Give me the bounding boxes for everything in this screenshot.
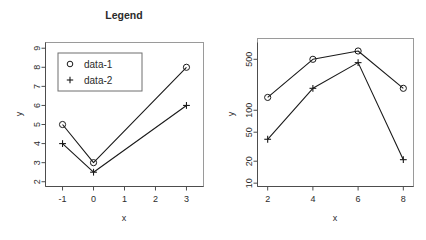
y-tick-label: 50 [245, 127, 255, 137]
plot-right-svg: 102050100500 2468 x y [213, 0, 426, 240]
left-y-ticks: 23456789 [33, 46, 46, 185]
y-tick-label: 10 [245, 178, 255, 188]
series-line-data-1 [268, 51, 404, 97]
x-tick-label: 0 [91, 194, 96, 204]
y-tick-label: 5 [33, 122, 43, 127]
y-tick-label: 500 [245, 52, 255, 67]
y-tick-label: 6 [33, 103, 43, 108]
y-tick-label: 100 [245, 103, 255, 118]
chart-canvas: 23456789 -10123 data-1data-2 Legend x y … [0, 0, 426, 240]
legend-label: data-2 [84, 75, 113, 86]
left-x-axis-label: x [122, 213, 127, 223]
plot-panel-right: 102050100500 2468 x y [213, 0, 426, 240]
y-tick-label: 7 [33, 84, 43, 89]
x-tick-label: 2 [153, 194, 158, 204]
y-tick-label: 20 [245, 156, 255, 166]
left-legend[interactable]: data-1data-2 [58, 53, 142, 91]
x-tick-label: 3 [184, 194, 189, 204]
y-tick-label: 8 [33, 65, 43, 70]
plot-left-svg: 23456789 -10123 data-1data-2 Legend x y [0, 0, 213, 240]
right-series-data-1 [265, 48, 407, 101]
left-x-ticks: -10123 [59, 187, 189, 204]
legend-label: data-1 [84, 59, 113, 70]
x-tick-label: 6 [356, 194, 361, 204]
plot-panel-left: 23456789 -10123 data-1data-2 Legend x y [0, 0, 213, 240]
y-tick-label: 4 [33, 141, 43, 146]
right-series-data-2 [264, 59, 406, 163]
right-y-ticks: 102050100500 [245, 52, 258, 188]
page-title: Legend [105, 9, 142, 21]
left-series-data-2 [59, 102, 190, 176]
marker-circle [265, 94, 271, 100]
right-x-axis-label: x [333, 213, 338, 223]
x-tick-label: -1 [59, 194, 67, 204]
x-tick-label: 4 [310, 194, 315, 204]
left-y-axis-label: y [14, 111, 24, 116]
x-tick-label: 2 [265, 194, 270, 204]
x-tick-label: 8 [401, 194, 406, 204]
series-line-data-2 [63, 105, 187, 172]
right-plot-frame [258, 39, 414, 187]
right-x-ticks: 2468 [265, 187, 406, 204]
y-tick-label: 3 [33, 160, 43, 165]
series-line-data-2 [268, 63, 404, 160]
right-y-axis-label: y [226, 111, 236, 116]
x-tick-label: 1 [122, 194, 127, 204]
y-tick-label: 2 [33, 179, 43, 184]
y-tick-label: 9 [33, 46, 43, 51]
